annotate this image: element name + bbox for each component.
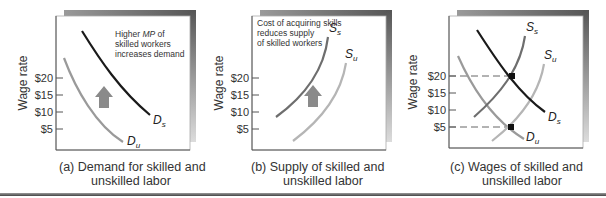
svg-text:reduces supply: reduces supply — [257, 28, 315, 38]
svg-text:$5: $5 — [434, 121, 446, 133]
caption-c: (c) Wages of skilled and unskilled labor — [450, 160, 606, 188]
svg-text:$10: $10 — [428, 104, 446, 116]
svg-text:$15: $15 — [428, 87, 446, 99]
y-tick-20: $20 — [35, 72, 53, 84]
svg-text:$20: $20 — [428, 70, 446, 82]
equilibrium-unskilled — [508, 124, 514, 130]
svg-text:of skilled workers: of skilled workers — [257, 38, 322, 48]
panel-a-graph: $20 $15 $10 $5 Wage rate Ds Du Higher MP… — [0, 0, 200, 160]
svg-text:$5: $5 — [237, 123, 249, 135]
y-tick-15: $15 — [35, 89, 53, 101]
panel-c-graph: $20 $15 $10 $5 Wage rate Ss Su Ds Du — [393, 0, 593, 160]
svg-text:Higher MP of: Higher MP of — [115, 29, 165, 39]
y-tick-10: $10 — [35, 106, 53, 118]
svg-text:Cost of acquiring skills: Cost of acquiring skills — [257, 18, 342, 28]
bottom-rule — [0, 193, 606, 196]
svg-text:increases demand: increases demand — [115, 49, 185, 59]
panel-c-wages: $20 $15 $10 $5 Wage rate Ss Su Ds Du (c)… — [393, 0, 593, 198]
svg-text:$15: $15 — [231, 89, 249, 101]
y-axis-label: Wage rate — [16, 55, 30, 110]
y-axis-label: Wage rate — [212, 55, 226, 110]
svg-text:skilled workers: skilled workers — [115, 39, 171, 49]
svg-text:$10: $10 — [231, 106, 249, 118]
svg-text:$20: $20 — [231, 72, 249, 84]
y-tick-5: $5 — [41, 123, 53, 135]
y-axis-label: Wage rate — [406, 54, 420, 109]
equilibrium-skilled — [509, 73, 515, 79]
panel-b-graph: $20 $15 $10 $5 Wage rate Ss Su Cost of a… — [196, 0, 396, 160]
panel-a-demand: $20 $15 $10 $5 Wage rate Ds Du Higher MP… — [0, 0, 200, 198]
panel-b-supply: $20 $15 $10 $5 Wage rate Ss Su Cost of a… — [196, 0, 396, 198]
